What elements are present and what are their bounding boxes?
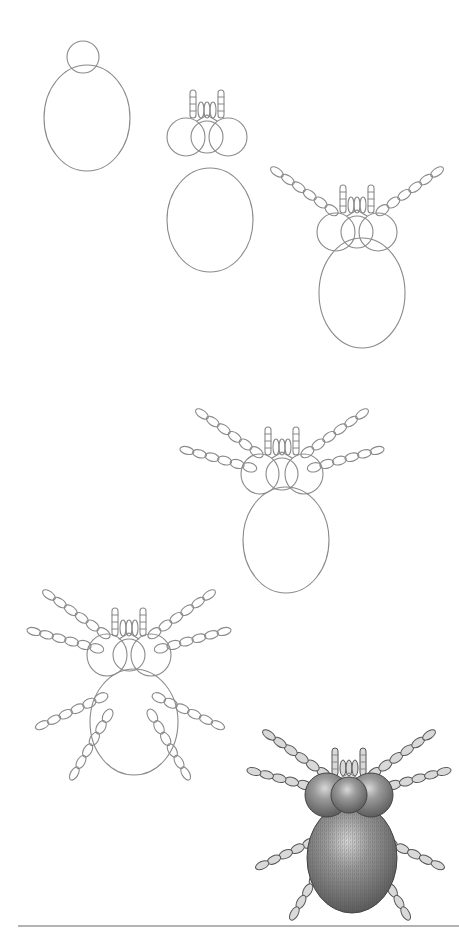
abdomen — [319, 238, 405, 348]
leg-segment — [226, 429, 243, 444]
leg-segment — [52, 595, 68, 610]
head — [266, 458, 298, 490]
leg-segment — [310, 437, 327, 453]
cephalothorax-lobe — [167, 118, 205, 156]
leg-segment — [39, 629, 55, 640]
leg-segment — [73, 610, 90, 625]
leg-segment — [246, 766, 262, 777]
leg-segment — [210, 719, 226, 732]
leg-segment — [194, 407, 210, 422]
leg-segment — [100, 707, 115, 724]
leg-segment — [411, 772, 427, 784]
leg-segment — [271, 772, 287, 784]
leg-segment — [299, 444, 316, 460]
leg-segment — [248, 444, 265, 460]
leg-segment — [237, 437, 254, 453]
head — [341, 216, 373, 248]
leg-segment — [280, 172, 296, 187]
leg-segment — [201, 588, 217, 603]
leg-segment — [321, 429, 338, 444]
cephalothorax-lobe — [87, 634, 127, 676]
leg-segment — [215, 422, 232, 437]
leg-segment — [436, 766, 452, 777]
leg-segment — [80, 742, 94, 759]
leg-segment — [190, 595, 206, 610]
leg-segment — [178, 636, 194, 648]
step-4 — [179, 407, 385, 593]
step-5 — [26, 588, 232, 782]
step-6 — [246, 728, 452, 922]
leg-segment — [301, 187, 318, 202]
leg-segment — [421, 728, 437, 743]
leg-segment — [84, 618, 101, 634]
leg-segment — [192, 448, 208, 459]
leg-segment — [205, 414, 221, 429]
cephalothorax-lobe — [317, 213, 355, 251]
drawing-canvas — [0, 0, 459, 937]
cephalothorax-lobe — [209, 118, 247, 156]
leg-segment — [157, 618, 174, 634]
leg-segment — [290, 180, 307, 195]
leg-segment — [396, 187, 413, 202]
leg-segment — [332, 422, 349, 437]
leg-segment — [259, 769, 275, 780]
leg-segment — [331, 455, 347, 467]
leg-segment — [261, 728, 277, 743]
leg-segment — [344, 451, 360, 463]
leg-segment — [95, 625, 112, 641]
leg-segment — [418, 172, 434, 187]
leg-segment — [179, 603, 196, 618]
leg-segment — [51, 632, 67, 644]
leg-segment — [229, 458, 245, 470]
leg-segment — [191, 632, 207, 644]
leg-segment — [319, 458, 335, 470]
leg-segment — [152, 719, 167, 736]
chelicera — [360, 197, 366, 213]
leg-segment — [64, 636, 80, 648]
leg-segment — [430, 859, 446, 872]
leg-segment — [343, 414, 359, 429]
head — [191, 121, 223, 153]
leg-segment — [429, 165, 445, 180]
leg-segment — [204, 451, 220, 463]
leg-segment — [357, 448, 373, 459]
leg-segment — [67, 765, 81, 781]
step-2 — [167, 90, 253, 272]
leg-segment — [385, 195, 402, 211]
leg-segment — [94, 719, 109, 736]
leg-segment — [172, 754, 186, 771]
leg-segment — [179, 445, 195, 456]
abdomen — [44, 65, 130, 171]
abdomen — [243, 487, 329, 593]
chelicera — [132, 620, 138, 636]
leg-segment — [269, 165, 285, 180]
leg-segment — [62, 603, 79, 618]
leg-segment — [168, 610, 185, 625]
leg-segment — [369, 445, 385, 456]
leg-segment — [26, 626, 42, 637]
leg-segment — [254, 859, 270, 872]
leg-segment — [287, 905, 301, 921]
chelicera — [198, 102, 204, 118]
leg-segment — [399, 905, 413, 921]
step-1 — [44, 41, 130, 171]
leg-segment — [312, 195, 329, 211]
chelicera — [352, 760, 358, 776]
step-3 — [269, 165, 445, 348]
chelicera — [273, 439, 279, 455]
leg-segment — [158, 730, 173, 747]
leg-segment — [216, 626, 232, 637]
cephalothorax-lobe — [359, 213, 397, 251]
chelicera — [210, 102, 216, 118]
cephalothorax-lobe — [131, 634, 171, 676]
head — [331, 777, 367, 813]
leg-segment — [34, 719, 50, 732]
leg-segment — [204, 629, 220, 640]
leg-segment — [424, 769, 440, 780]
leg-segment — [217, 455, 233, 467]
leg-segment — [145, 707, 160, 724]
leg-segment — [407, 180, 424, 195]
abdomen — [167, 168, 253, 272]
chelicera — [348, 197, 354, 213]
leg-segment — [354, 407, 370, 422]
